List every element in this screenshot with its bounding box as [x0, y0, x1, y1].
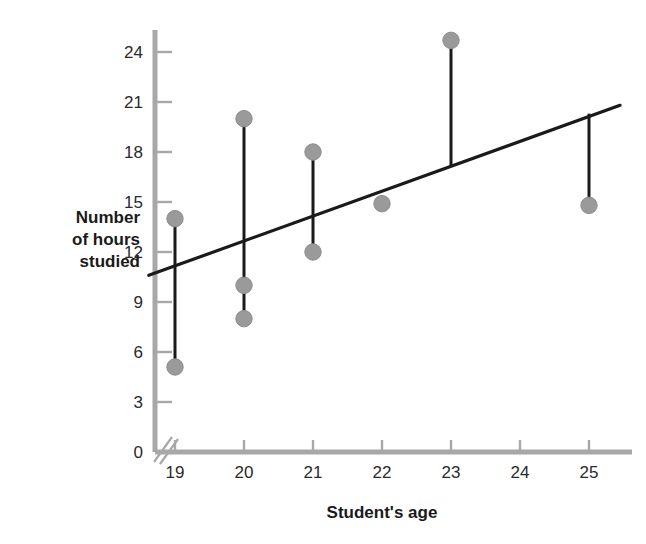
data-point — [305, 244, 321, 260]
data-point — [305, 144, 321, 160]
y-tick-label: 24 — [124, 43, 143, 62]
y-axis-title-line-3: studied — [80, 252, 140, 271]
x-tick-label: 19 — [166, 463, 185, 482]
x-axis-title: Student's age — [327, 503, 438, 522]
y-axis-title-line-1: Number — [76, 208, 141, 227]
chart-canvas: 03691215182124 19202122232425 Number of … — [0, 0, 646, 544]
data-point-group — [167, 32, 597, 375]
x-tick-label: 22 — [373, 463, 392, 482]
scatter-plot-figure: 03691215182124 19202122232425 Number of … — [0, 0, 646, 544]
y-tick-label: 3 — [134, 393, 143, 412]
y-tick-label: 0 — [134, 443, 143, 462]
data-point — [167, 359, 183, 375]
x-tick-label: 24 — [511, 463, 530, 482]
data-point — [236, 310, 252, 326]
data-point — [167, 210, 183, 226]
data-point — [236, 110, 252, 126]
y-tick-label: 18 — [124, 143, 143, 162]
y-tick-label: 9 — [134, 293, 143, 312]
x-tick-label: 23 — [442, 463, 461, 482]
y-axis-title-line-2: of hours — [72, 230, 140, 249]
x-tick-label: 21 — [304, 463, 323, 482]
data-point — [374, 195, 390, 211]
y-tick-label: 6 — [134, 343, 143, 362]
data-point — [236, 277, 252, 293]
x-axis-ticks: 19202122232425 — [166, 440, 599, 482]
x-tick-label: 25 — [580, 463, 599, 482]
data-point — [581, 197, 597, 213]
data-point — [443, 32, 459, 48]
y-tick-label: 21 — [124, 93, 143, 112]
line-of-best-fit — [149, 105, 620, 275]
x-tick-label: 20 — [235, 463, 254, 482]
